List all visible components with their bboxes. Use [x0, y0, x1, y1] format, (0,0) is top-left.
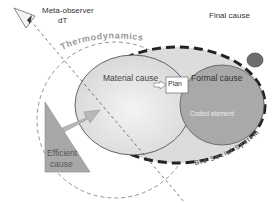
plan-label: Plan: [168, 80, 182, 87]
observer-eye-icon: [14, 8, 35, 28]
final-cause-circle: [247, 53, 263, 67]
causal-diagram: Thermodynamics Bio Social System: [0, 0, 275, 203]
thermodynamics-label: Thermodynamics: [59, 30, 145, 51]
svg-text:Thermodynamics: Thermodynamics: [59, 30, 145, 51]
coded-element-label: Coded element: [190, 110, 234, 117]
material-cause-label: Material cause: [103, 73, 158, 83]
meta-observer-label: Meta-observer: [42, 6, 94, 15]
efficient-cause-label-line1: Efficient: [47, 148, 77, 158]
efficient-cause-label-line2: cause: [50, 159, 73, 169]
final-cause-label: Final cause: [209, 11, 250, 20]
formal-cause-label: Formal cause: [191, 73, 243, 83]
material-cause-ellipse: [75, 55, 191, 155]
meta-observer-dt-label: dT: [58, 16, 67, 25]
